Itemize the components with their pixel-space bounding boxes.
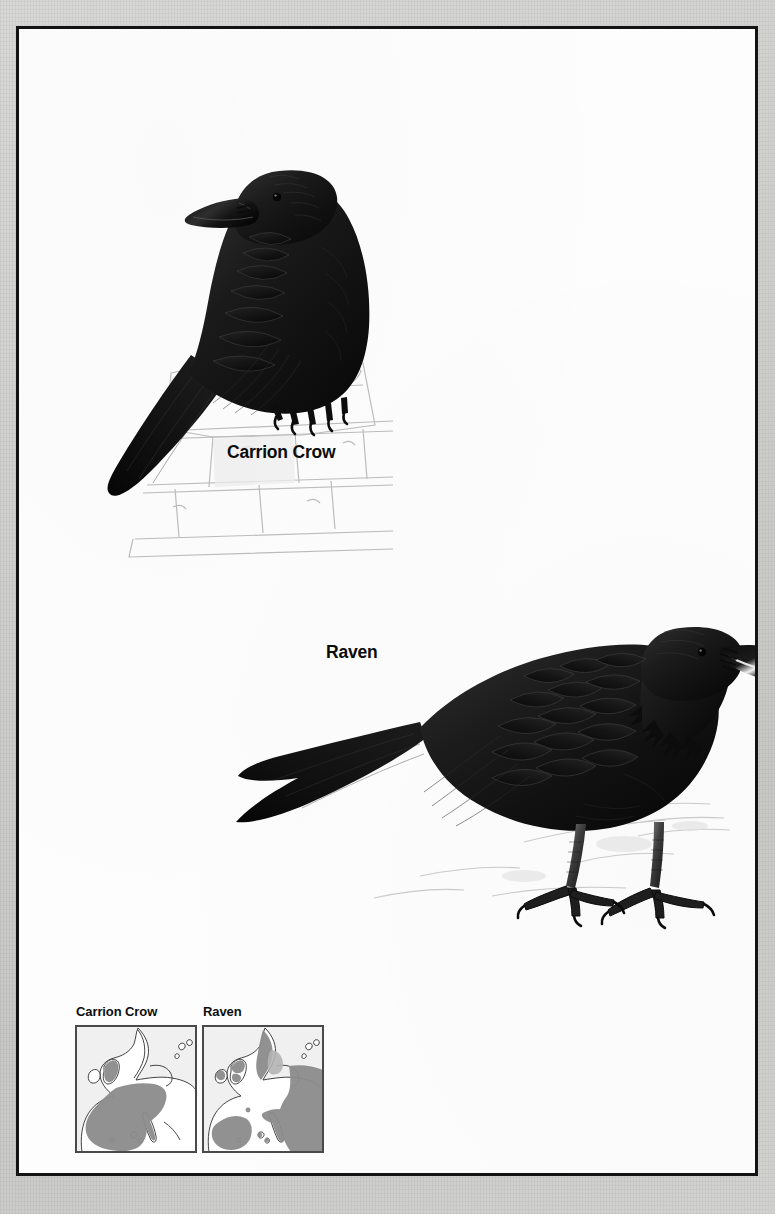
map-caption-raven: Raven (203, 1004, 324, 1019)
raven-tail (236, 722, 426, 822)
map-block-carrion-crow: Carrion Crow (75, 1004, 197, 1153)
map-block-raven: Raven (202, 1004, 324, 1153)
map-caption-carrion-crow: Carrion Crow (76, 1004, 197, 1019)
raven-plate-label: Raven (326, 642, 378, 663)
raven-head (641, 627, 743, 701)
carrion-crow-plate-label: Carrion Crow (227, 442, 335, 463)
raven-illustration (224, 524, 744, 939)
map-frame-carrion-crow (75, 1025, 197, 1153)
scanned-page-background: Carrion Crow (0, 0, 775, 1214)
crow-bill (185, 199, 259, 228)
map-frame-raven (202, 1025, 324, 1153)
raven-eye (698, 648, 706, 656)
crow-eye (273, 193, 281, 201)
illustration-plate: Carrion Crow (16, 26, 758, 1176)
